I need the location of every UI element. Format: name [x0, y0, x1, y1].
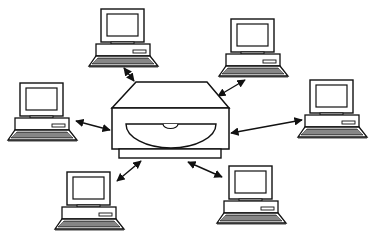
link-bottom-right [188, 162, 222, 177]
desktop-computer-icon [55, 172, 124, 230]
link-top-left [124, 68, 134, 81]
desktop-computer-icon [298, 80, 367, 138]
desktop-computer-icon [8, 83, 77, 141]
desktop-computer-icon [219, 19, 288, 77]
desktop-computer-icon [89, 9, 158, 67]
network-diagram [0, 0, 372, 236]
link-right [231, 120, 302, 133]
optical-drive-icon [112, 82, 229, 158]
desktop-computer-icon [217, 166, 286, 224]
link-top-right [218, 80, 245, 96]
link-bottom-left [117, 161, 141, 181]
link-left [76, 121, 110, 130]
